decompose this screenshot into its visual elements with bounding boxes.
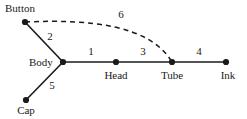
edge-label-5: 5 — [49, 79, 55, 91]
node-label-head: Head — [104, 69, 127, 81]
diagram-canvas: Button Body Cap Head Tube Ink 1 2 3 4 5 … — [0, 0, 247, 119]
node-label-button: Button — [5, 2, 35, 14]
node-ink[interactable] — [223, 59, 229, 65]
node-label-ink: Ink — [221, 69, 236, 81]
node-tube[interactable] — [169, 59, 175, 65]
edge-label-2: 2 — [47, 30, 53, 42]
node-label-cap: Cap — [17, 104, 35, 116]
node-cap[interactable] — [23, 97, 29, 103]
node-label-tube: Tube — [161, 69, 183, 81]
edge-label-1: 1 — [88, 45, 94, 57]
edge-label-6: 6 — [118, 8, 124, 20]
node-button[interactable] — [22, 19, 28, 25]
edge-label-4: 4 — [196, 45, 202, 57]
node-body[interactable] — [60, 59, 66, 65]
edge-label-3: 3 — [140, 45, 146, 57]
node-label-body: Body — [29, 56, 53, 68]
node-head[interactable] — [113, 59, 119, 65]
